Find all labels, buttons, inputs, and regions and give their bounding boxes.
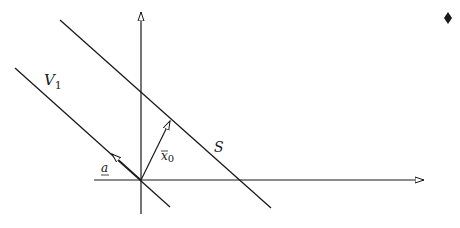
diagram-canvas: V1 S x0 a (0, 0, 460, 228)
diamond-bullet-icon (444, 12, 452, 24)
label-x0: x0 (161, 149, 174, 164)
label-s: S (214, 139, 224, 155)
vector-a-arrow (112, 154, 141, 180)
line-v1 (15, 68, 170, 207)
label-v1: V1 (44, 71, 62, 92)
svg-text:a: a (101, 161, 108, 175)
label-a: a (101, 161, 109, 175)
